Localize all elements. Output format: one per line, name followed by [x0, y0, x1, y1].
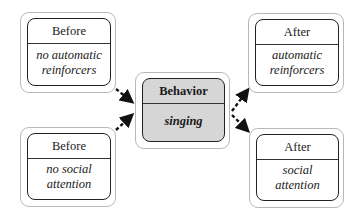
after-box-automatic: After automatic reinforcers — [248, 13, 344, 93]
behavior-header: Behavior — [143, 79, 224, 104]
arrow-before2-to-behavior — [116, 116, 131, 130]
after-box-social: After social attention — [249, 128, 344, 208]
after-content: social attention — [257, 160, 338, 200]
before-content: no social attention — [28, 159, 110, 199]
after-content: automatic reinforcers — [256, 45, 338, 85]
arrow-before1-to-behavior — [116, 89, 131, 101]
before-header: Before — [28, 134, 110, 159]
behavior-box: Behavior singing — [135, 72, 230, 149]
arrow-behavior-to-after1 — [232, 91, 247, 111]
before-box-automatic: Before no automatic reinforcers — [20, 12, 116, 93]
behavior-content: singing — [143, 104, 224, 141]
before-header: Before — [28, 19, 110, 44]
before-content: no automatic reinforcers — [28, 44, 110, 85]
arrow-behavior-to-after2 — [232, 115, 247, 130]
after-header: After — [256, 20, 338, 45]
before-box-social: Before no social attention — [20, 127, 116, 207]
after-header: After — [257, 135, 338, 160]
